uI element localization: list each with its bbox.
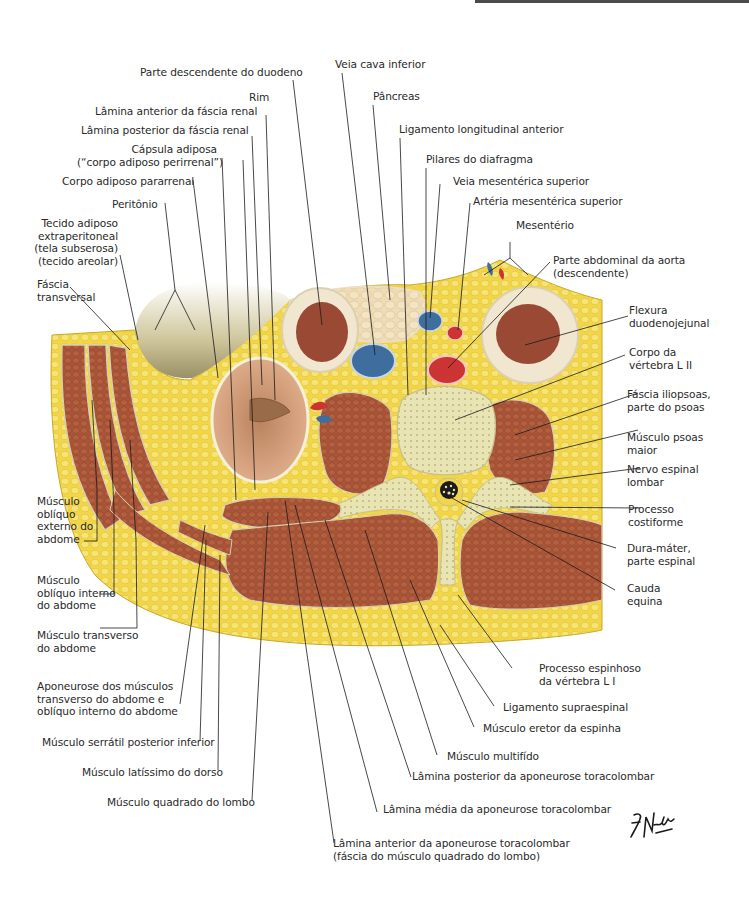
label-mesenterio: Mesentério [516, 219, 574, 232]
superior-mesenteric-artery [447, 326, 463, 340]
label-corpo-adiposo-pararrenal: Corpo adiposo pararrenal [62, 175, 194, 188]
label-lamina-media-aponeurose: Lâmina média da aponeurose toracolombar [383, 803, 611, 816]
label-dura-mater: Dura-máter, parte espinal [627, 542, 695, 567]
vertebral-body-l2 [397, 387, 495, 475]
label-rim: Rim [249, 91, 269, 104]
psoas-major-left [319, 393, 392, 494]
abdominal-aorta [428, 356, 466, 384]
label-arteria-mesenterica-superior: Artéria mesentérica superior [473, 195, 623, 208]
label-musculo-multifido: Músculo multifído [447, 750, 539, 763]
label-capsula-adiposa: Cápsula adiposa (“corpo adiposo perirren… [77, 143, 217, 168]
label-veia-cava-inferior: Veia cava inferior [335, 58, 425, 71]
label-musculo-quadrado-lombo: Músculo quadrado do lombo [107, 796, 255, 809]
label-tecido-adiposo-extraperitoneal: Tecido adiposo extraperitoneal (tela sub… [20, 217, 118, 267]
label-ligamento-longitudinal-anterior: Ligamento longitudinal anterior [399, 123, 563, 136]
label-lamina-posterior-fascia-renal: Lâmina posterior da fáscia renal [81, 124, 249, 137]
label-lamina-anterior-fascia-renal: Lâmina anterior da fáscia renal [95, 105, 257, 118]
label-processo-costiforme: Processo costiforme [628, 503, 683, 528]
netter-signature [628, 805, 678, 843]
label-veia-mesenterica-superior: Veia mesentérica superior [453, 175, 589, 188]
label-musculo-serratil: Músculo serrátil posterior inferior [42, 736, 215, 749]
dura-mater [440, 481, 458, 499]
label-cauda-equina: Cauda equina [627, 582, 663, 607]
label-corpo-vertebra-l2: Corpo da vértebra L II [629, 346, 692, 371]
label-parte-descendente-duodeno: Parte descendente do duodeno [140, 66, 303, 79]
erector-spinae-left [226, 514, 439, 608]
label-parte-abdominal-aorta: Parte abdominal da aorta (descendente) [553, 254, 685, 279]
inferior-vena-cava [351, 344, 395, 378]
label-pancreas: Pâncreas [373, 90, 420, 103]
label-musculo-obliquo-interno: Músculo oblíquo interno do abdome [37, 574, 116, 612]
label-lamina-posterior-aponeurose: Lâmina posterior da aponeurose toracolom… [412, 770, 654, 783]
label-fascia-transversal: Fáscia transversal [37, 278, 95, 303]
label-processo-espinhoso: Processo espinhoso da vértebra L I [539, 662, 641, 687]
label-nervo-espinal-lombar: Nervo espinal lombar [627, 463, 698, 488]
label-ligamento-supraespinal: Ligamento supraespinal [503, 701, 628, 714]
label-fascia-iliopsoas: Fáscia iliopsoas, parte do psoas [627, 388, 710, 413]
erector-spinae-right [460, 512, 602, 609]
label-musculo-eretor: Músculo eretor da espinha [483, 722, 621, 735]
label-flexura-duodenojejunal: Flexura duodenojejunal [629, 304, 709, 329]
label-musculo-obliquo-externo: Músculo oblíquo externo do abdome [37, 495, 93, 545]
label-pilares-diafragma: Pilares do diafragma [426, 153, 533, 166]
label-musculo-psoas-maior: Músculo psoas maior [627, 431, 703, 456]
label-peritonio: Peritônio [112, 198, 158, 211]
label-musculo-transverso: Músculo transverso do abdome [37, 629, 138, 654]
label-lamina-anterior-aponeurose: Lâmina anterior da aponeurose toracolomb… [333, 837, 570, 862]
label-aponeurose-musculos: Aponeurose dos músculos transverso do ab… [37, 680, 178, 718]
label-musculo-latissimo: Músculo latíssimo do dorso [82, 766, 223, 779]
